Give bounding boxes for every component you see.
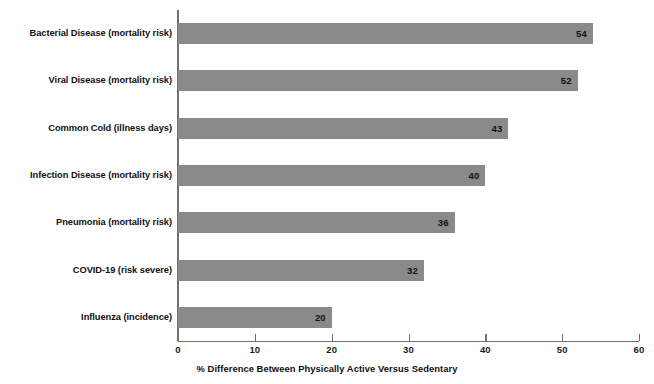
x-axis-tick-label: 10 [249,344,260,355]
x-axis-title: % Difference Between Physically Active V… [0,363,654,374]
bar: 40 [178,165,639,186]
bar-rect [178,118,508,139]
x-axis-tick [409,334,410,341]
bar: 54 [178,23,639,44]
x-axis-tick-label: 30 [403,344,414,355]
y-axis-category-label: Common Cold (illness days) [4,118,172,139]
x-axis-line [178,341,639,342]
x-axis-tick-label: 60 [634,344,645,355]
bar-rect [178,23,593,44]
x-axis-tick [178,334,179,341]
bar-value-label: 54 [571,23,587,44]
y-axis-category-label: Pneumonia (mortality risk) [4,212,172,233]
y-axis-category-label: Infection Disease (mortality risk) [4,165,172,186]
y-axis-category-label: Influenza (incidence) [4,307,172,328]
bar: 52 [178,70,639,91]
bar-rect [178,212,455,233]
bar-value-label: 32 [402,260,418,281]
bar-value-label: 40 [463,165,479,186]
y-axis-category-label: COVID-19 (risk severe) [4,260,172,281]
bar-value-label: 20 [310,307,326,328]
bar: 36 [178,212,639,233]
y-axis-category-label: Bacterial Disease (mortality risk) [4,23,172,44]
bar: 32 [178,260,639,281]
y-axis-category-labels: Bacterial Disease (mortality risk)Viral … [0,10,172,341]
x-axis-tick [255,334,256,341]
x-axis-tick-label: 40 [480,344,491,355]
bar: 20 [178,307,639,328]
x-axis-tick-label: 50 [557,344,568,355]
plot-area: 54524340363220 [178,10,639,341]
x-axis-tick [562,334,563,341]
bar-chart: Bacterial Disease (mortality risk)Viral … [0,0,654,384]
bar-value-label: 36 [433,212,449,233]
bar-rect [178,307,332,328]
bar-rect [178,70,578,91]
x-axis-tick-label: 20 [326,344,337,355]
x-axis-tick [485,334,486,341]
x-axis-tick-label: 0 [175,344,180,355]
y-axis-category-label: Viral Disease (mortality risk) [4,70,172,91]
x-axis-tick [639,334,640,341]
bar: 43 [178,118,639,139]
bar-value-label: 52 [556,70,572,91]
x-axis-tick [332,334,333,341]
bar-rect [178,260,424,281]
bar-rect [178,165,485,186]
bar-value-label: 43 [486,118,502,139]
